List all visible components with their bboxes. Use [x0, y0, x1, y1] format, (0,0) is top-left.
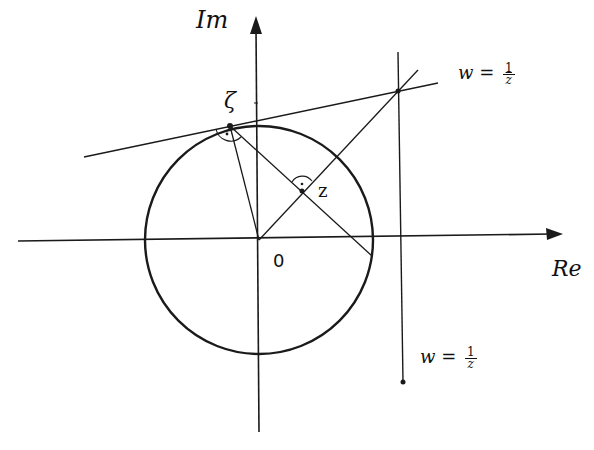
right-angle-dot-zeta: [226, 133, 229, 136]
vertical-line-lhs: w =: [420, 346, 456, 367]
origin-ray: [259, 70, 418, 240]
vertical-line-endpoint: [401, 380, 406, 385]
z-label: z: [318, 180, 327, 201]
real-axis-label: Re: [552, 256, 582, 281]
imag-axis-arrow-icon: [250, 16, 262, 34]
radius-to-zeta: [230, 126, 259, 240]
zeta-label: ζ: [224, 88, 236, 113]
z-point: [300, 189, 305, 194]
tangent-line-denominator: z: [506, 75, 512, 86]
vertical-line-fraction: 1 z: [465, 347, 477, 370]
vertical-line-label: w = 1 z: [420, 346, 477, 370]
tangent-line-fraction: 1 z: [503, 63, 515, 86]
real-axis-arrow-icon: [546, 228, 563, 240]
imag-axis-label: Im: [196, 6, 228, 34]
right-angle-dot-z: [301, 183, 304, 186]
intersection-point: [396, 89, 401, 94]
vertical-line-denominator: z: [468, 359, 474, 370]
origin-label: 0: [273, 250, 284, 271]
tangent-line: [84, 83, 438, 157]
right-angle-mark-z: [292, 176, 312, 182]
vertical-line: [398, 52, 403, 382]
tangent-line-label: w = 1 z: [458, 62, 515, 86]
zeta-point: [227, 123, 233, 129]
real-axis: [18, 234, 552, 241]
tangent-line-lhs: w =: [458, 62, 494, 83]
